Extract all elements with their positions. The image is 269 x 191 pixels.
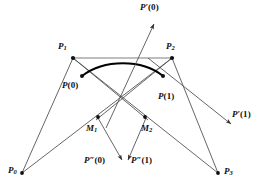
point-p0 [20,171,24,175]
point-p1 [71,56,75,60]
label-p0-sub: 0 [14,168,17,175]
label-ddp0-arg: (0) [94,155,105,165]
label-dp1-arg: (1) [240,109,251,119]
label-m2-sub: 2 [149,126,152,133]
label-pt1-arg: (1) [164,91,175,101]
point-pt0 [80,74,84,78]
label-point-at-zero: P(0) [62,81,78,90]
segment-p2-p3-leg [172,58,218,173]
label-m2: M2 [141,124,152,134]
label-point-at-one: P(1) [158,92,174,101]
label-dp0-arg: (0) [148,2,159,12]
label-m1: M1 [86,124,97,134]
label-p1: P1 [58,42,67,52]
label-p3: P3 [224,167,233,177]
point-m1 [96,115,100,119]
label-p2: P2 [166,42,175,52]
label-second-derivative-at-zero: P″(0) [84,156,105,165]
point-pt1 [161,74,165,78]
bezier-diagram-figure: P0 P1 P2 P3 P(0) P(1) M1 M2 P′(0) P′(1) … [0,0,269,191]
point-p2 [170,56,174,60]
label-p1-sub: 1 [64,44,67,51]
segment-p1-m2 [73,58,148,120]
label-first-derivative-at-one: P′(1) [232,110,251,119]
label-m1-sub: 1 [94,126,97,133]
segment-p0-p1-leg [22,58,73,173]
label-p2-sub: 2 [172,44,175,51]
label-first-derivative-at-zero: P′(0) [140,3,159,12]
label-second-derivative-at-one: P″(1) [131,156,152,165]
label-p3-sub: 3 [230,169,233,176]
arrow-second-derivative-at-zero [98,118,122,160]
label-m1-base: M [86,123,94,133]
label-pt0-arg: (0) [68,80,79,90]
point-m2 [143,115,147,119]
label-ddp1-arg: (1) [141,155,152,165]
label-m2-base: M [141,123,149,133]
arrow-first-derivative-at-zero [106,24,154,128]
label-p0: P0 [8,166,17,176]
point-p3 [216,171,220,175]
